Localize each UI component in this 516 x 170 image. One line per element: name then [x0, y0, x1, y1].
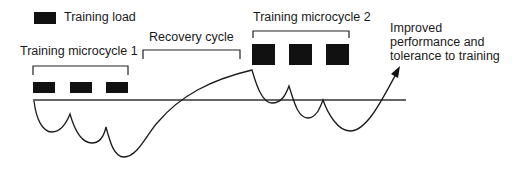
diagram-lines [0, 0, 516, 170]
arrow-head-icon [391, 66, 400, 78]
fitness-curve [34, 70, 396, 157]
bracket-microcycle2 [253, 31, 349, 38]
bracket-microcycle1 [33, 66, 128, 75]
bracket-recovery [143, 50, 240, 59]
